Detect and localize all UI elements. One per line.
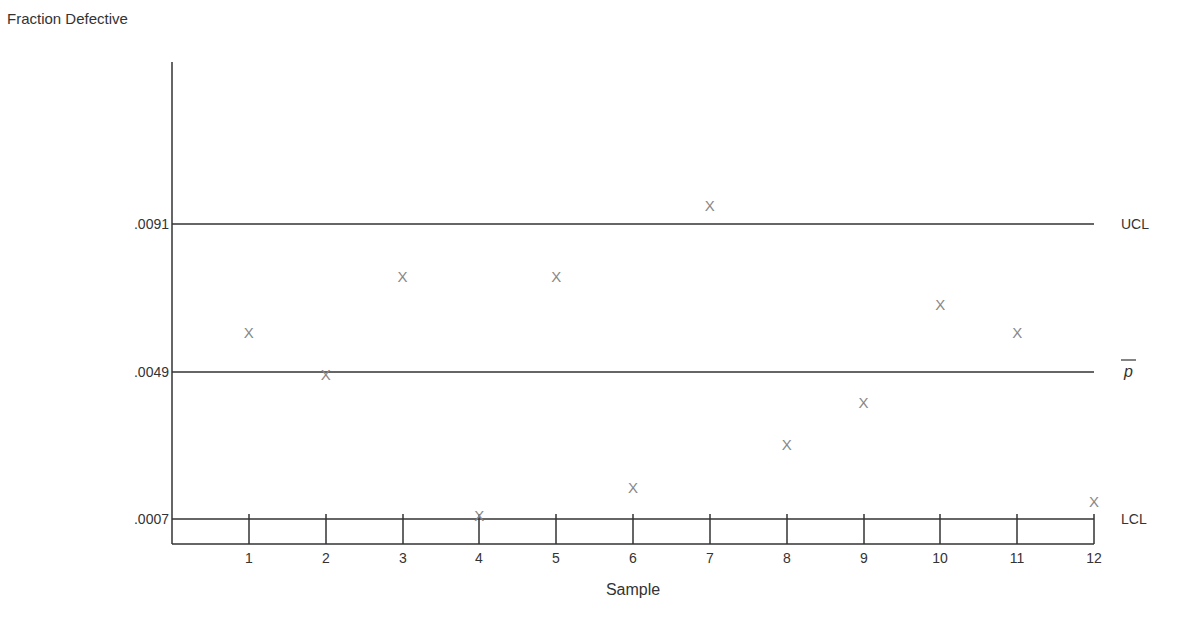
ucl-y-tick-label: .0091 xyxy=(134,216,169,232)
data-point-marker: X xyxy=(244,324,254,341)
x-tick-label: 6 xyxy=(629,550,637,566)
data-points: XXXXXXXXXXXX xyxy=(244,197,1099,524)
data-point-marker: X xyxy=(935,296,945,313)
data-point-marker: X xyxy=(1089,493,1099,510)
ucl-label: UCL xyxy=(1121,216,1149,232)
y-axis-title: Fraction Defective xyxy=(7,10,128,27)
x-tick-label: 4 xyxy=(475,550,483,566)
x-tick-label: 5 xyxy=(552,550,560,566)
data-point-marker: X xyxy=(1012,324,1022,341)
data-point-marker: X xyxy=(397,268,407,285)
data-point-marker: X xyxy=(858,394,868,411)
lcl-label: LCL xyxy=(1121,511,1147,527)
data-point-marker: X xyxy=(628,479,638,496)
p-chart: Fraction Defective .0091UCL.0049p.0007LC… xyxy=(0,0,1194,635)
x-tick-label: 11 xyxy=(1010,550,1025,566)
x-tick-label: 9 xyxy=(860,550,868,566)
x-tick-label: 2 xyxy=(322,550,330,566)
x-tick-label: 10 xyxy=(932,550,948,566)
x-tick-label: 8 xyxy=(783,550,791,566)
center-y-tick-label: .0049 xyxy=(134,364,169,380)
axes xyxy=(172,62,1094,544)
data-point-marker: X xyxy=(782,436,792,453)
x-axis-title: Sample xyxy=(606,581,660,598)
x-tick-label: 3 xyxy=(399,550,407,566)
x-ticks: 123456789101112 xyxy=(245,514,1102,566)
x-tick-label: 12 xyxy=(1086,550,1102,566)
p-bar-label: p xyxy=(1121,360,1136,380)
x-tick-label: 1 xyxy=(245,550,253,566)
data-point-marker: X xyxy=(321,366,331,383)
lcl-y-tick-label: .0007 xyxy=(134,511,169,527)
svg-text:p: p xyxy=(1123,363,1133,380)
data-point-marker: X xyxy=(551,268,561,285)
data-point-marker: X xyxy=(474,507,484,524)
control-lines: .0091UCL.0049p.0007LCL xyxy=(134,216,1149,527)
data-point-marker: X xyxy=(705,197,715,214)
x-tick-label: 7 xyxy=(706,550,714,566)
